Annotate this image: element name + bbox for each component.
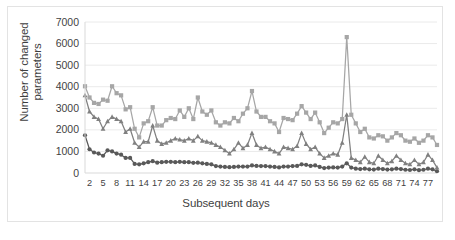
data-point-marker: [254, 142, 259, 147]
chart-plot-area: 0100020003000400050006000700025811141720…: [8, 7, 444, 223]
x-tick-label: 44: [274, 178, 284, 188]
data-point-marker: [394, 131, 398, 135]
x-tick-label: 11: [125, 178, 135, 188]
data-point-marker: [349, 113, 353, 117]
data-point-marker: [110, 114, 115, 119]
data-point-marker: [164, 160, 168, 164]
data-point-marker: [304, 163, 308, 167]
x-tick-label: 38: [247, 178, 257, 188]
data-point-marker: [218, 164, 222, 168]
data-point-marker: [114, 151, 118, 155]
data-point-marker: [363, 167, 367, 171]
data-point-marker: [281, 164, 285, 168]
data-point-marker: [187, 106, 191, 110]
data-point-marker: [362, 154, 367, 159]
data-point-marker: [300, 162, 304, 166]
data-point-marker: [345, 161, 349, 165]
data-point-marker: [358, 167, 362, 171]
data-point-marker: [151, 105, 155, 109]
data-point-marker: [304, 141, 309, 146]
data-point-marker: [250, 130, 255, 135]
x-tick-labels: 2581114172023262932353841444750535659626…: [87, 178, 433, 188]
data-point-marker: [277, 130, 281, 134]
data-point-marker: [381, 134, 385, 138]
y-tick-label: 3000: [56, 102, 80, 114]
data-point-marker: [340, 164, 344, 168]
data-point-marker: [245, 164, 249, 168]
data-point-marker: [214, 164, 218, 168]
data-point-marker: [313, 111, 317, 115]
data-point-marker: [105, 99, 109, 103]
data-point-marker: [300, 104, 304, 108]
data-point-marker: [173, 136, 178, 141]
data-point-marker: [182, 115, 186, 119]
data-point-marker: [421, 139, 425, 143]
data-point-marker: [412, 136, 416, 140]
data-point-marker: [110, 84, 114, 88]
data-point-marker: [128, 126, 133, 131]
data-point-marker: [169, 160, 173, 164]
data-point-marker: [426, 133, 430, 137]
data-point-marker: [372, 136, 376, 140]
data-point-marker: [286, 164, 290, 168]
data-point-marker: [223, 165, 227, 169]
data-point-marker: [390, 167, 394, 171]
data-point-marker: [96, 102, 100, 106]
data-point-marker: [340, 140, 345, 145]
data-point-marker: [191, 117, 195, 121]
data-point-marker: [119, 93, 123, 97]
data-point-marker: [367, 167, 371, 171]
data-point-marker: [381, 167, 385, 171]
data-point-marker: [426, 167, 430, 171]
data-point-marker: [327, 126, 331, 130]
x-tick-label: 20: [166, 178, 176, 188]
data-point-marker: [367, 135, 371, 139]
data-point-marker: [227, 165, 231, 169]
data-point-marker: [191, 161, 195, 165]
x-tick-label: 14: [139, 178, 149, 188]
data-point-marker: [245, 142, 250, 147]
data-point-marker: [259, 115, 263, 119]
data-point-marker: [178, 108, 182, 112]
data-point-marker: [313, 145, 318, 150]
chart-frame: 0100020003000400050006000700025811141720…: [7, 6, 443, 222]
data-point-marker: [421, 168, 425, 172]
data-point-marker: [435, 143, 439, 147]
data-point-marker: [295, 164, 299, 168]
data-point-marker: [295, 112, 299, 116]
data-point-marker: [390, 135, 394, 139]
data-point-marker: [169, 116, 173, 120]
data-point-marker: [259, 164, 263, 168]
data-point-marker: [354, 167, 358, 171]
x-tick-label: 32: [220, 178, 230, 188]
data-point-marker: [263, 145, 268, 150]
y-tick-label: 4000: [56, 80, 80, 92]
data-point-marker: [376, 167, 380, 171]
x-tick-label: 26: [193, 178, 203, 188]
data-point-marker: [236, 140, 241, 145]
data-point-marker: [195, 134, 200, 139]
data-point-marker: [142, 161, 146, 165]
data-point-marker: [281, 145, 286, 150]
data-point-marker: [101, 154, 105, 158]
x-tick-label: 2: [87, 178, 92, 188]
data-point-marker: [214, 120, 218, 124]
data-point-marker: [295, 143, 300, 148]
data-point-marker: [309, 164, 313, 168]
data-point-marker: [110, 149, 114, 153]
data-point-marker: [164, 118, 168, 122]
data-point-marker: [124, 107, 128, 111]
data-point-marker: [430, 167, 434, 171]
data-point-marker: [344, 112, 349, 117]
data-point-marker: [417, 141, 421, 145]
y-tick-label: 7000: [56, 16, 80, 28]
data-point-marker: [250, 89, 254, 93]
data-point-marker: [322, 166, 326, 170]
data-point-marker: [150, 123, 155, 128]
data-point-marker: [245, 106, 249, 110]
y-axis-title: Number of changed parameters: [18, 0, 44, 147]
data-point-marker: [160, 160, 164, 164]
y-tick-label: 6000: [56, 37, 80, 49]
data-point-marker: [223, 120, 227, 124]
y-gridlines: 01000200030004000500060007000: [56, 16, 437, 179]
